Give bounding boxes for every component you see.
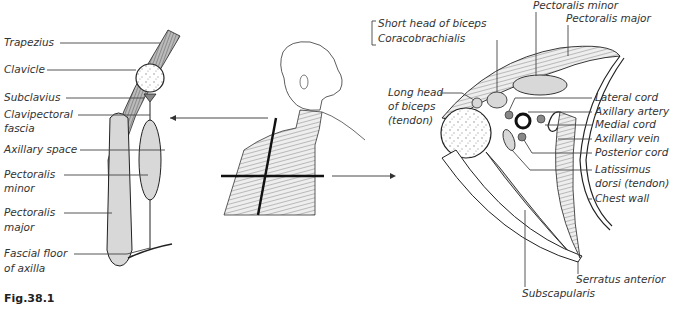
serratus-anterior-shape	[556, 112, 581, 258]
axilla-diagram: Trapezius Clavicle Subclavius Clavipecto…	[0, 0, 674, 310]
label-medial-cord: Medial cord	[595, 118, 656, 130]
label-fascial-floor-1: Fascial floor	[4, 247, 68, 259]
lateral-cord-shape	[505, 111, 513, 119]
label-subscapularis: Subscapularis	[522, 287, 596, 299]
label-pectoralis-minor-2: minor	[4, 182, 35, 194]
label-pectoralis-major-1: Pectoralis	[4, 206, 56, 218]
label-long-head-2: of biceps	[388, 100, 436, 112]
pectoralis-minor-shape	[139, 120, 161, 200]
label-short-head-biceps: Short head of biceps	[378, 17, 487, 29]
label-fascial-floor-2: of axilla	[4, 262, 45, 274]
pectoralis-major-shape	[107, 113, 132, 266]
medial-cord-shape	[537, 115, 545, 123]
label-serratus-anterior: Serratus anterior	[576, 273, 666, 285]
label-clavicle: Clavicle	[4, 63, 45, 75]
label-axillary-vein: Axillary vein	[594, 132, 660, 144]
subclavius-shape	[144, 94, 156, 102]
label-pectoralis-minor-1: Pectoralis	[4, 168, 56, 180]
figure-caption: Fig.38.1	[4, 292, 54, 305]
label-trapezius: Trapezius	[4, 36, 55, 48]
label-pectoralis-major-r: Pectoralis major	[566, 12, 652, 24]
posterior-cord-shape	[518, 133, 526, 141]
head-outline	[281, 42, 342, 111]
label-pectoralis-minor-r: Pectoralis minor	[533, 0, 619, 11]
label-long-head-3: (tendon)	[388, 114, 433, 126]
label-latissimus-2: dorsi (tendon)	[595, 177, 669, 189]
pectoralis-minor-shape-r	[513, 75, 567, 95]
short-head-coraco-shape	[487, 92, 507, 108]
right-horizontal-section: Short head of biceps Coracobrachialis Lo…	[372, 0, 670, 299]
label-long-head-1: Long head	[388, 86, 443, 98]
label-chest-wall: Chest wall	[595, 192, 649, 204]
label-lateral-cord: Lateral cord	[595, 91, 658, 103]
label-coracobrachialis: Coracobrachialis	[378, 32, 466, 44]
latissimus-shape	[501, 128, 518, 152]
label-axillary-space: Axillary space	[3, 143, 77, 155]
humerus-shape	[441, 108, 491, 158]
arrow-left-icon	[170, 115, 176, 121]
axillary-artery-shape	[516, 114, 530, 128]
label-posterior-cord: Posterior cord	[595, 146, 669, 158]
center-figure	[170, 42, 396, 215]
label-latissimus-1: Latissimus	[595, 163, 651, 175]
label-subclavius: Subclavius	[4, 91, 61, 103]
label-pectoralis-major-2: major	[4, 221, 35, 233]
ear-shape	[300, 75, 308, 89]
arrow-right-icon	[390, 173, 396, 179]
shoulder-muscles	[224, 110, 322, 215]
label-axillary-artery: Axillary artery	[594, 105, 670, 117]
label-fascia: fascia	[4, 122, 35, 134]
left-sagittal-section: Trapezius Clavicle Subclavius Clavipecto…	[3, 30, 180, 305]
label-clavipectoral: Clavipectoral	[4, 108, 73, 120]
clavicle-shape	[136, 64, 164, 92]
bracket-icon	[372, 21, 376, 45]
